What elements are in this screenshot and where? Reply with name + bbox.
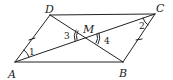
angle-4-arc-inner <box>96 34 98 43</box>
angle-label-4: 4 <box>104 36 110 46</box>
label-c: C <box>156 2 165 15</box>
side-cd <box>50 14 155 15</box>
angle-label-2: 2 <box>139 21 145 31</box>
label-b: B <box>118 67 127 80</box>
parallelogram-diagram: A B C D M 1 2 3 4 <box>0 0 173 80</box>
angle-label-1: 1 <box>29 47 35 57</box>
label-d: D <box>44 3 54 16</box>
angle-label-3: 3 <box>64 31 70 41</box>
tick-mark-bc <box>136 39 142 40</box>
label-m: M <box>82 23 95 36</box>
angle-4-arc-outer <box>98 33 100 44</box>
label-a: A <box>7 68 16 80</box>
